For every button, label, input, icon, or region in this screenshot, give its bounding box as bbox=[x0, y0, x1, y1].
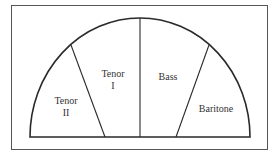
section-baritone-label: Baritone bbox=[199, 103, 234, 114]
section-tenor-ii-label: Tenor bbox=[54, 95, 78, 106]
section-tenor-i-number: I bbox=[111, 80, 114, 91]
section-bass-label: Bass bbox=[159, 71, 178, 82]
section-tenor-i-label: Tenor bbox=[101, 68, 125, 79]
choir-seating-diagram: Tenor II Tenor I Bass Baritone bbox=[0, 0, 274, 153]
section-tenor-ii-number: II bbox=[63, 107, 70, 118]
